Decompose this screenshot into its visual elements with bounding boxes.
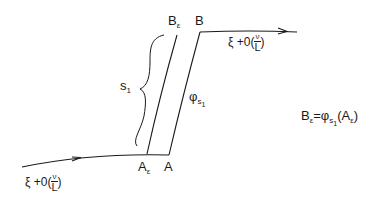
arc-length-label: s1 bbox=[120, 79, 131, 95]
trajectory-aeps-beps bbox=[147, 35, 177, 154]
equation-label: Bε=φs1(Aε) bbox=[301, 109, 358, 127]
incoming-approximation-label: ξ +0(νL) bbox=[25, 173, 62, 193]
point-label-b-eps: Bε bbox=[168, 14, 180, 30]
point-label-a-eps: Aε bbox=[138, 160, 150, 176]
point-label-a: A bbox=[164, 160, 173, 173]
flow-map-label: φs1 bbox=[189, 90, 205, 108]
outgoing-trajectory bbox=[200, 31, 297, 32]
outgoing-approximation-label: ξ +0(νL) bbox=[228, 33, 265, 53]
point-label-b: B bbox=[195, 14, 204, 27]
brace-icon bbox=[136, 35, 164, 146]
